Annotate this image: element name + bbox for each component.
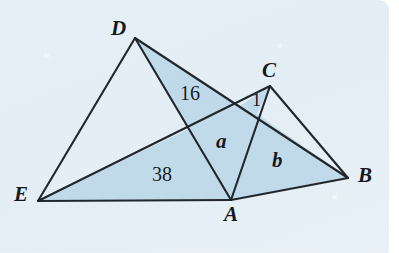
vertex-label-d: D [111,18,126,39]
diagram-page: DCEAB161a38b [0,0,399,253]
vertex-label-c: C [262,60,276,81]
geometry-figure [0,0,399,253]
vertex-label-b: B [358,165,372,186]
region-label-1: 1 [252,91,261,109]
edge-E-A [38,200,231,201]
region-label-b: b [272,150,283,171]
shaded-regions-group [38,38,348,201]
region-label-a: a [216,131,227,152]
region-label-38: 38 [152,164,172,184]
vertex-label-e: E [14,184,28,205]
region-label-16: 16 [180,83,200,103]
vertex-label-a: A [224,204,238,225]
